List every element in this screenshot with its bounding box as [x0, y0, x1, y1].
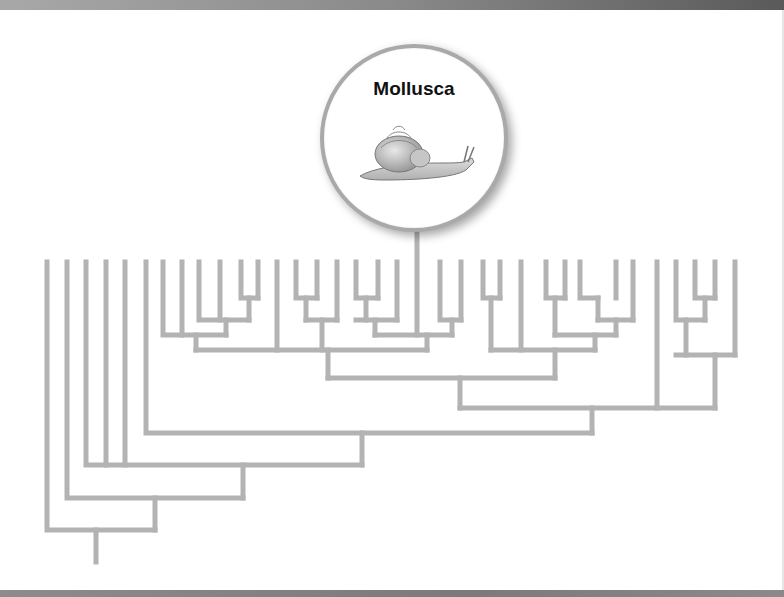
mollusca-callout: Mollusca	[320, 44, 508, 232]
branch-leaf-1	[47, 262, 155, 530]
callout-title: Mollusca	[324, 78, 504, 100]
bottom-border	[0, 590, 784, 597]
snail-icon	[354, 118, 484, 188]
